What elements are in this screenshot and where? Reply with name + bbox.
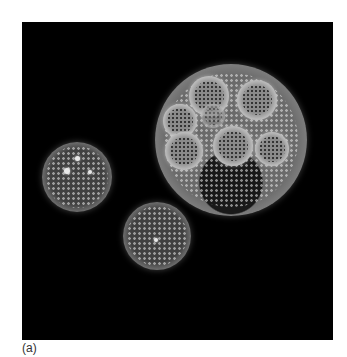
daughter-colony: [213, 126, 253, 166]
small-colony: [123, 202, 191, 270]
daughter-colony: [237, 80, 277, 120]
gonidium: [88, 170, 92, 174]
micrograph-image: [22, 22, 333, 340]
gonidium: [154, 238, 158, 242]
left-colony: [42, 142, 112, 212]
daughter-colony: [165, 132, 203, 170]
figure-caption: (a): [22, 341, 37, 355]
gonidium: [64, 168, 70, 174]
daughter-colony: [255, 132, 289, 166]
daughter-colony: [201, 104, 225, 128]
cell-pattern: [127, 206, 187, 266]
large-colony: [155, 64, 307, 216]
gonidium: [75, 156, 80, 161]
